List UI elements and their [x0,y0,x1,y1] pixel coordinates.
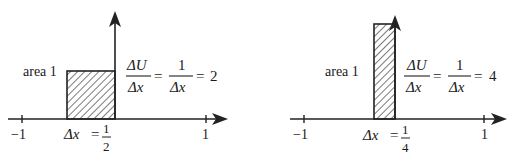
axis-label-one: 1 [481,127,488,142]
ratio-denominator: Δx [405,79,422,95]
ratio-result: 2 [210,68,218,84]
dx-fraction-num: 1 [103,121,110,136]
dx-label: Δx [63,126,80,142]
equals-2: = [474,68,482,84]
ratio-result: 4 [489,68,497,84]
ratio-numerator: ΔU [406,57,428,73]
equals-1: = [433,68,441,84]
panel-right: area 1 ΔU Δx = 1 Δx = 4 −1 1 Δx = 1 4 [290,15,507,155]
dx-fraction-num: 1 [402,122,409,137]
dx-fraction-den: 4 [402,140,409,155]
area-label: area 1 [23,64,57,79]
axis-label-minus-one: −1 [293,127,308,142]
axis-label-one: 1 [202,127,209,142]
one-numerator: 1 [178,57,186,73]
dx-denominator: Δx [448,79,465,95]
dx-equals: = [91,126,99,142]
area-rectangle [374,24,395,119]
one-numerator: 1 [456,57,464,73]
equals-2: = [196,68,204,84]
area-rectangle [67,71,115,119]
panel-left: area 1 ΔU Δx = 1 Δx = 2 −1 1 Δx = 1 2 [8,11,228,154]
dx-fraction-den: 2 [103,139,110,154]
dx-denominator: Δx [169,79,186,95]
axis-label-minus-one: −1 [11,127,26,142]
dx-label: Δx [362,127,379,143]
dx-equals: = [390,127,398,143]
diagram-canvas: area 1 ΔU Δx = 1 Δx = 2 −1 1 Δx = 1 2 ar… [0,0,509,155]
ratio-numerator: ΔU [126,57,148,73]
area-label: area 1 [325,64,359,79]
ratio-denominator: Δx [127,79,144,95]
equals-1: = [154,68,162,84]
